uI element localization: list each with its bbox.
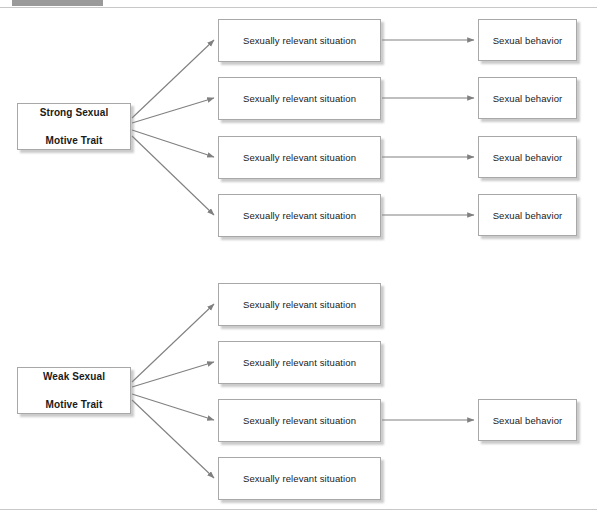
arrow-weak-to-situation-4 (132, 400, 214, 478)
node-weak-situation-4[interactable]: Sexually relevant situation (218, 457, 381, 500)
node-strong-situation-2[interactable]: Sexually relevant situation (218, 77, 381, 120)
node-strong-behavior-3[interactable]: Sexual behavior (478, 136, 577, 178)
node-strong-situation-1[interactable]: Sexually relevant situation (218, 19, 381, 62)
arrow-strong-to-situation-1 (132, 40, 214, 118)
node-weak-situation-2[interactable]: Sexually relevant situation (218, 341, 381, 384)
page-top-rule (0, 7, 597, 8)
node-strong-sexual-motive-trait[interactable]: Strong SexualMotive Trait (17, 103, 131, 150)
node-strong-situation-4[interactable]: Sexually relevant situation (218, 194, 381, 237)
page-header-bar (12, 0, 103, 6)
arrow-strong-to-situation-3 (132, 130, 214, 157)
node-weak-behavior-3[interactable]: Sexual behavior (478, 399, 577, 441)
strong-trait-label: Strong SexualMotive Trait (28, 106, 121, 148)
arrow-weak-to-situation-1 (132, 304, 214, 382)
arrow-weak-to-situation-3 (132, 394, 214, 420)
diagram-canvas: Strong SexualMotive Trait Sexually relev… (0, 0, 597, 519)
node-strong-situation-3[interactable]: Sexually relevant situation (218, 136, 381, 179)
node-weak-situation-1[interactable]: Sexually relevant situation (218, 283, 381, 326)
node-strong-behavior-4[interactable]: Sexual behavior (478, 194, 577, 236)
node-weak-sexual-motive-trait[interactable]: Weak SexualMotive Trait (17, 367, 131, 414)
arrow-strong-to-situation-4 (132, 136, 214, 215)
node-strong-behavior-1[interactable]: Sexual behavior (478, 19, 577, 61)
node-strong-behavior-2[interactable]: Sexual behavior (478, 77, 577, 119)
arrow-strong-to-situation-2 (132, 98, 214, 123)
node-weak-situation-3[interactable]: Sexually relevant situation (218, 399, 381, 442)
weak-trait-label: Weak SexualMotive Trait (31, 370, 117, 412)
arrow-weak-to-situation-2 (132, 362, 214, 387)
page-bottom-rule (0, 509, 597, 510)
